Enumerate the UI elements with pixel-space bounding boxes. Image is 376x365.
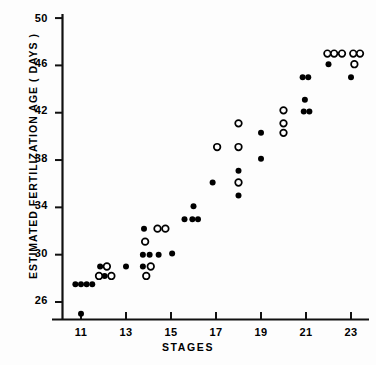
data-point-open — [351, 61, 358, 68]
data-point-filled — [84, 281, 90, 287]
x-tick-label-21: 21 — [294, 326, 318, 338]
data-point-open — [96, 273, 103, 280]
data-point-filled — [123, 264, 129, 270]
data-point-open — [280, 107, 287, 114]
data-point-filled — [306, 109, 312, 115]
data-point-filled — [236, 168, 242, 174]
data-point-filled — [140, 252, 146, 258]
x-axis-title: STAGES — [0, 341, 376, 353]
data-point-open — [108, 273, 115, 280]
data-point-filled — [236, 193, 242, 199]
data-point-filled — [78, 311, 84, 317]
data-point-open — [280, 120, 287, 127]
y-tick-label-26: 26 — [22, 294, 48, 306]
data-point-open — [357, 50, 364, 57]
data-point-filled — [189, 216, 195, 222]
scatter-plot-figure: ESTIMATED FERTILIZATION AGE ( DAYS ) STA… — [0, 0, 376, 365]
data-point-open — [280, 130, 287, 137]
data-point-open — [235, 120, 242, 127]
x-tick-label-17: 17 — [204, 326, 228, 338]
data-point-open — [235, 144, 242, 151]
data-point-open — [154, 225, 161, 232]
data-point-open — [214, 144, 221, 151]
x-tick-label-13: 13 — [114, 326, 138, 338]
data-point-open — [142, 238, 149, 245]
data-point-filled — [182, 216, 188, 222]
data-point-filled — [72, 281, 78, 287]
x-tick-label-19: 19 — [249, 326, 273, 338]
y-tick-label-50: 50 — [22, 12, 48, 24]
data-point-filled — [78, 281, 84, 287]
y-tick-label-30: 30 — [22, 247, 48, 259]
data-point-filled — [147, 252, 153, 258]
series-open — [96, 50, 364, 279]
y-tick-label-42: 42 — [22, 104, 48, 116]
data-point-filled — [191, 203, 197, 209]
data-point-filled — [169, 251, 175, 257]
data-point-open — [339, 50, 346, 57]
data-point-filled — [195, 216, 201, 222]
data-point-open — [147, 263, 154, 270]
data-point-filled — [326, 61, 332, 67]
data-point-filled — [156, 252, 162, 258]
data-point-filled — [305, 74, 311, 80]
data-point-filled — [210, 180, 216, 186]
data-point-filled — [258, 130, 264, 136]
data-point-filled — [300, 74, 306, 80]
y-tick-label-34: 34 — [22, 199, 48, 211]
data-point-filled — [302, 97, 308, 103]
x-tick-label-11: 11 — [69, 326, 93, 338]
data-point-filled — [141, 226, 147, 232]
x-tick-label-23: 23 — [339, 326, 363, 338]
data-point-open — [350, 50, 357, 57]
data-point-filled — [301, 109, 307, 115]
data-point-filled — [140, 264, 146, 270]
data-point-open — [104, 263, 111, 270]
data-point-open — [235, 179, 242, 186]
data-point-filled — [89, 281, 95, 287]
y-tick-label-38: 38 — [22, 152, 48, 164]
data-point-open — [324, 50, 331, 57]
data-point-open — [143, 273, 150, 280]
data-point-filled — [97, 264, 103, 270]
data-point-filled — [348, 74, 354, 80]
data-markers-layer — [72, 50, 363, 317]
data-point-open — [162, 225, 169, 232]
data-point-filled — [258, 156, 264, 162]
data-point-open — [331, 50, 338, 57]
plot-canvas — [0, 0, 376, 365]
y-tick-label-46: 46 — [22, 57, 48, 69]
x-tick-label-15: 15 — [159, 326, 183, 338]
